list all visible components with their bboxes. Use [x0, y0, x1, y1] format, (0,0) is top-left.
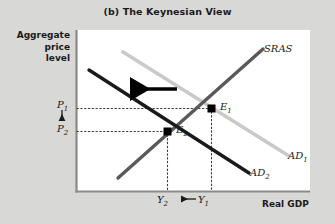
axis-tick-label-p1-text: P	[57, 99, 64, 110]
plot-graphics	[0, 0, 335, 224]
axis-tick-label-p2: P2	[57, 123, 68, 137]
curve-label-sras: SRAS	[264, 43, 292, 54]
x-axis-label: Real GDP	[262, 199, 309, 209]
figure-container: (b) The Keynesian View Aggregate price l…	[0, 0, 335, 224]
point-label-e2: E2	[176, 124, 188, 138]
curve-label-ad1-text: AD	[288, 150, 303, 161]
axis-tick-label-p2-text: P	[57, 123, 64, 134]
axis-tick-label-y2-text: Y	[157, 194, 164, 205]
curve-label-ad2-text: AD	[250, 167, 265, 178]
point-label-e2-subscript: 2	[183, 130, 187, 138]
axis-tick-label-p1: P1	[57, 99, 68, 113]
curve-label-ad2: AD2	[250, 167, 270, 181]
curve-label-ad1: AD1	[288, 150, 308, 164]
axis-tick-label-p2-subscript: 2	[64, 129, 68, 137]
point-label-e1-subscript: 1	[227, 107, 231, 115]
axis-tick-label-y2-subscript: 2	[164, 200, 168, 208]
point-label-e1: E1	[220, 101, 232, 115]
axis-tick-label-p1-subscript: 1	[64, 105, 68, 113]
point-marker-e1	[208, 105, 216, 113]
axis-tick-label-y1-text: Y	[198, 194, 205, 205]
curve-label-ad2-subscript: 2	[265, 173, 269, 181]
curve-ad2	[89, 70, 249, 173]
axis-tick-label-y2: Y2	[157, 194, 168, 208]
axis-tick-label-y1: Y1	[198, 194, 209, 208]
curve-ad1	[123, 52, 289, 156]
curve-label-ad1-subscript: 1	[303, 156, 307, 164]
curve-sras	[118, 49, 263, 178]
axis-tick-label-y1-subscript: 1	[205, 200, 209, 208]
point-marker-e2	[164, 128, 172, 136]
